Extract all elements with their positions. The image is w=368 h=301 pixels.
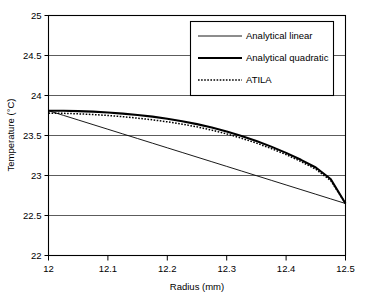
y-tick-label-25: 25 xyxy=(31,10,42,21)
legend-label-analytical-quadratic: Analytical quadratic xyxy=(246,52,329,63)
x-tick-label-12.1: 12.1 xyxy=(99,263,118,274)
x-tick-label-12: 12 xyxy=(43,263,54,274)
x-axis-title: Radius (mm) xyxy=(170,281,224,292)
x-tick-label-12.4: 12.4 xyxy=(277,263,296,274)
y-tick-label-24: 24 xyxy=(31,90,42,101)
y-tick-label-23.5: 23.5 xyxy=(23,130,42,141)
y-tick-label-22: 22 xyxy=(31,250,42,261)
legend-label-atila: ATILA xyxy=(246,74,272,85)
chart-figure: 2222.52323.52424.525 1212.112.212.312.41… xyxy=(0,0,368,301)
legend: Analytical linear Analytical quadratic A… xyxy=(191,22,334,96)
x-tick-label-12.3: 12.3 xyxy=(217,263,236,274)
y-tick-label-22.5: 22.5 xyxy=(23,210,42,221)
x-tick-label-12.2: 12.2 xyxy=(158,263,177,274)
temperature-radius-line-chart: 2222.52323.52424.525 1212.112.212.312.41… xyxy=(0,0,368,301)
y-tick-label-24.5: 24.5 xyxy=(23,50,42,61)
y-axis-title: Temperature (°C) xyxy=(5,99,16,172)
legend-label-analytical-linear: Analytical linear xyxy=(246,30,313,41)
x-tick-label-12.5: 12.5 xyxy=(336,263,355,274)
y-tick-label-23: 23 xyxy=(31,170,42,181)
